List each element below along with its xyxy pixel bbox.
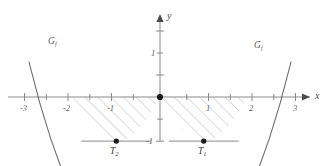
x-tick-label-pos1: 1 <box>206 104 210 113</box>
curve-label-right-sub: f <box>261 44 263 51</box>
curve-label-right: Gf <box>254 41 263 51</box>
x-tick-label-neg1: -1 <box>107 104 114 113</box>
point-label-t2-sub: 2 <box>115 150 118 157</box>
point-label-t1-sub: 1 <box>203 150 206 157</box>
y-tick-label-pos1: 1 <box>151 49 155 58</box>
shaded-region-left <box>73 97 160 141</box>
point-origin <box>157 94 163 100</box>
y-tick-label-neg1: -1 <box>146 137 153 146</box>
y-axis-arrow-icon <box>156 14 163 22</box>
y-axis-label: y <box>167 11 171 21</box>
x-tick-label-pos3: 3 <box>293 104 297 113</box>
x-tick-label-neg2: -2 <box>63 104 70 113</box>
curve-label-left: Gf <box>48 37 57 47</box>
point-t1 <box>201 138 206 143</box>
x-tick-label-pos2: 2 <box>249 104 253 113</box>
x-tick-label-neg3: -3 <box>20 104 27 113</box>
curve-label-left-text: G <box>48 36 55 46</box>
shaded-region-right <box>160 97 247 141</box>
figure-container: -3 -2 -1 1 2 3 1 -1 x y Gf Gf T2 T1 <box>0 0 330 166</box>
point-t2 <box>114 138 119 143</box>
curve-label-left-sub: f <box>55 40 57 47</box>
x-axis-label: x <box>315 91 319 101</box>
graph-canvas <box>0 0 330 166</box>
point-label-t2: T2 <box>110 147 119 157</box>
curve-label-right-text: G <box>254 40 261 50</box>
x-axis-arrow-icon <box>302 93 310 100</box>
point-label-t1: T1 <box>198 147 207 157</box>
